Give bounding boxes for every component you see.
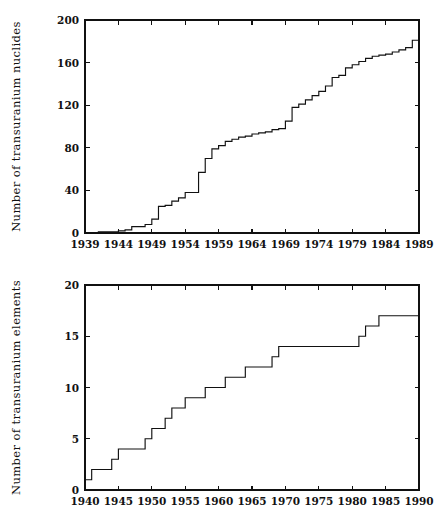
figure-root: 1939194419491954195919641969197419791984… [0, 0, 443, 526]
y-axis-tick-labels: 05101520 [64, 279, 79, 496]
x-tick-label: 1944 [104, 238, 133, 250]
axis-frame [85, 20, 419, 233]
x-tick-label: 1954 [171, 238, 200, 250]
x-tick-label: 1984 [371, 238, 400, 250]
plot-frame-bottom [85, 285, 419, 490]
y-axis-title: Number of transuranium nuclides [9, 21, 23, 232]
x-tick-label: 1945 [104, 495, 133, 507]
y-tick-label: 40 [64, 184, 79, 196]
x-tick-label: 1960 [204, 495, 233, 507]
x-tick-label: 1964 [237, 238, 266, 250]
y-axis-title: Number of transuranium elements [9, 280, 23, 495]
y-axis-tick-labels: 04080120160200 [57, 14, 79, 239]
chart-panel-transuranium-nuclides: 1939194419491954195919641969197419791984… [0, 0, 443, 263]
x-tick-label: 1985 [371, 495, 400, 507]
x-tick-label: 1970 [271, 495, 300, 507]
x-tick-label: 1959 [204, 238, 233, 250]
y-tick-label: 20 [64, 279, 79, 291]
y-axis-ticks [85, 20, 419, 233]
x-tick-label: 1940 [70, 495, 99, 507]
x-tick-label: 1989 [404, 238, 433, 250]
x-tick-label: 1975 [304, 495, 333, 507]
y-tick-label: 200 [57, 14, 79, 26]
x-tick-label: 1980 [338, 495, 367, 507]
x-axis-tick-labels: 1939194419491954195919641969197419791984… [70, 238, 433, 250]
y-tick-label: 0 [72, 227, 79, 239]
y-axis-ticks [85, 285, 419, 490]
chart-transuranium-elements: 1940194519501955196019651970197519801985… [0, 263, 443, 526]
y-tick-label: 80 [64, 142, 79, 154]
x-tick-label: 1974 [304, 238, 333, 250]
x-tick-label: 1965 [237, 495, 266, 507]
x-axis-ticks [85, 285, 419, 490]
x-tick-label: 1955 [171, 495, 200, 507]
plot-frame-top [85, 20, 419, 233]
y-tick-label: 10 [64, 382, 79, 394]
y-tick-label: 15 [64, 330, 79, 342]
y-tick-label: 120 [57, 99, 79, 111]
x-tick-label: 1950 [137, 495, 166, 507]
x-tick-label: 1979 [338, 238, 367, 250]
x-tick-label: 1939 [70, 238, 99, 250]
x-tick-label: 1969 [271, 238, 300, 250]
data-series-line [85, 40, 419, 233]
x-tick-label: 1949 [137, 238, 166, 250]
y-tick-label: 0 [72, 484, 79, 496]
y-tick-label: 5 [72, 433, 79, 445]
y-tick-label: 160 [57, 57, 79, 69]
data-series-line [85, 316, 419, 480]
axis-frame [85, 285, 419, 490]
chart-panel-transuranium-elements: 1940194519501955196019651970197519801985… [0, 263, 443, 526]
x-axis-ticks [85, 20, 419, 233]
chart-transuranium-nuclides: 1939194419491954195919641969197419791984… [0, 0, 443, 263]
x-axis-tick-labels: 1940194519501955196019651970197519801985… [70, 495, 433, 507]
x-tick-label: 1990 [404, 495, 433, 507]
